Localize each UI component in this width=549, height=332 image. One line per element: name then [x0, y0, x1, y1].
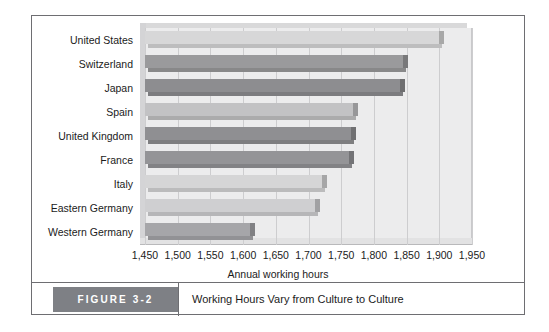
bar-end-cap: [322, 175, 327, 188]
bar: [145, 127, 351, 140]
bar-row: [145, 220, 472, 244]
x-tick-label: 1,700: [295, 249, 321, 261]
x-tick-label: 1,900: [426, 249, 452, 261]
figure-caption-band: FIGURE 3-2 Working Hours Vary from Cultu…: [32, 282, 524, 315]
bar-shadow: [148, 164, 352, 168]
category-label: United States: [70, 34, 133, 46]
bar: [145, 55, 403, 68]
bar: [145, 31, 439, 44]
figure-number-label: FIGURE 3-2: [77, 294, 153, 305]
bar-row: [145, 76, 472, 100]
bar-end-cap: [400, 79, 405, 92]
x-tick-label: 1,600: [230, 249, 256, 261]
gridline: [472, 28, 473, 245]
bar-shadow: [148, 68, 406, 72]
bar-shadow: [148, 236, 253, 240]
bar-end-cap: [439, 31, 444, 44]
x-tick-label: 1,750: [328, 249, 354, 261]
category-label: Switzerland: [79, 58, 133, 70]
bar-shadow: [148, 116, 356, 120]
x-axis-tick-labels: 1,4501,5001,5501,6001,6501,7001,7501,800…: [145, 249, 485, 263]
bar-shadow: [148, 212, 318, 216]
category-axis-labels: United StatesSwitzerlandJapanSpainUnited…: [32, 28, 137, 244]
bar: [145, 223, 250, 236]
bar: [145, 151, 349, 164]
bar-end-cap: [403, 55, 408, 68]
bar-row: [145, 124, 472, 148]
bar-row: [145, 100, 472, 124]
x-tick-label: 1,450: [132, 249, 158, 261]
bar-shadow: [148, 140, 354, 144]
bars-layer: [145, 28, 472, 244]
x-tick-label: 1,800: [361, 249, 387, 261]
x-tick-label: 1,650: [263, 249, 289, 261]
bar-end-cap: [349, 151, 354, 164]
bar-end-cap: [353, 103, 358, 116]
bar: [145, 175, 322, 188]
bar-row: [145, 196, 472, 220]
category-label: Italy: [114, 178, 133, 190]
category-label: United Kingdom: [58, 130, 133, 142]
bar-row: [145, 28, 472, 52]
x-tick-label: 1,850: [393, 249, 419, 261]
bar: [145, 103, 353, 116]
bar-end-cap: [351, 127, 356, 140]
bar-shadow: [148, 188, 325, 192]
figure-number-tag: FIGURE 3-2: [53, 287, 178, 312]
bar-end-cap: [315, 199, 320, 212]
chart-area: United StatesSwitzerlandJapanSpainUnited…: [32, 16, 524, 281]
bar-end-cap: [250, 223, 255, 236]
bar-row: [145, 148, 472, 172]
x-axis-title: Annual working hours: [32, 268, 524, 280]
category-label: France: [100, 154, 133, 166]
bar-shadow: [148, 92, 403, 96]
category-label: Spain: [106, 106, 133, 118]
figure-caption-title: Working Hours Vary from Culture to Cultu…: [192, 293, 404, 305]
category-label: Western Germany: [48, 226, 133, 238]
caption-divider: [178, 283, 179, 316]
x-tick-label: 1,950: [459, 249, 485, 261]
figure-border: United StatesSwitzerlandJapanSpainUnited…: [31, 15, 525, 315]
bar-row: [145, 172, 472, 196]
x-tick-label: 1,550: [197, 249, 223, 261]
bar: [145, 199, 315, 212]
category-label: Eastern Germany: [51, 202, 133, 214]
bar-row: [145, 52, 472, 76]
category-label: Japan: [104, 82, 133, 94]
bar: [145, 79, 400, 92]
x-tick-label: 1,500: [165, 249, 191, 261]
bar-shadow: [148, 44, 442, 48]
figure-root: United StatesSwitzerlandJapanSpainUnited…: [0, 0, 549, 332]
